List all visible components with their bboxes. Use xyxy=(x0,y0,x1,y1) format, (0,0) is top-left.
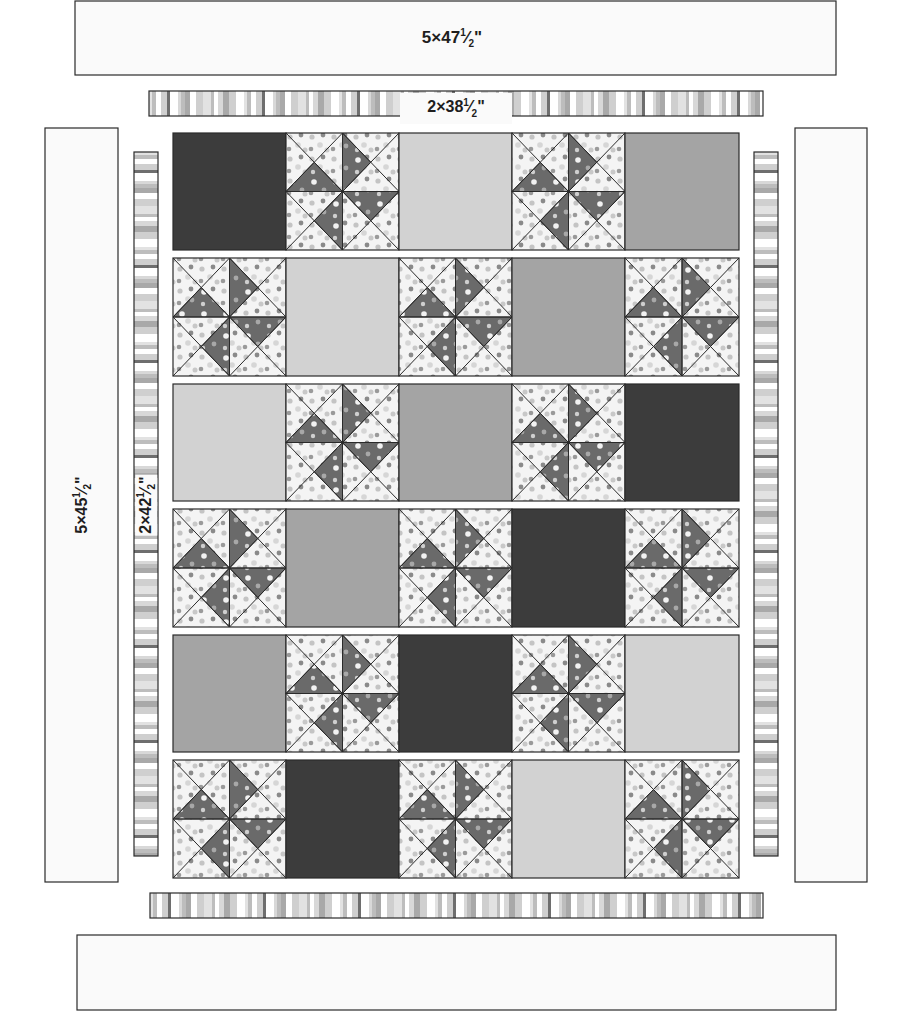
pinwheel-block xyxy=(173,258,286,376)
light-square xyxy=(173,384,286,501)
light-square xyxy=(625,635,739,752)
medium-square xyxy=(173,635,286,752)
pinwheel-block xyxy=(512,133,625,250)
quilt-row-6 xyxy=(173,760,739,878)
dark-square xyxy=(512,509,625,627)
pinwheel-block xyxy=(399,509,512,627)
medium-square xyxy=(399,384,512,501)
medium-square xyxy=(625,133,739,250)
pinwheel-block xyxy=(286,133,399,250)
bottom-outer-border xyxy=(77,935,836,1010)
top-outer-border-label: 5×471⁄2" xyxy=(0,27,904,49)
pinwheel-block xyxy=(512,635,625,752)
pinwheel-block xyxy=(625,760,739,878)
pinwheel-block xyxy=(173,760,286,878)
medium-square xyxy=(512,258,625,376)
pinwheel-block xyxy=(512,384,625,501)
dark-square xyxy=(399,635,512,752)
pinwheel-block xyxy=(399,760,512,878)
quilt-row-3 xyxy=(173,384,739,501)
bottom-inner-border xyxy=(150,893,763,918)
dark-square xyxy=(625,384,739,501)
light-square xyxy=(399,133,512,250)
pinwheel-block xyxy=(625,509,739,627)
quilt-row-4 xyxy=(173,509,739,627)
pinwheel-block xyxy=(399,258,512,376)
left-outer-border-label: 5×451⁄2" xyxy=(71,476,93,533)
medium-square xyxy=(286,509,399,627)
right-inner-border xyxy=(754,152,778,856)
quilt-row-5 xyxy=(173,635,739,752)
top-inner-border-label: 2×381⁄2" xyxy=(400,93,512,124)
dark-square xyxy=(173,133,286,250)
quilt-center xyxy=(173,133,739,878)
dark-square xyxy=(286,760,399,878)
right-outer-border xyxy=(795,128,867,882)
light-square xyxy=(512,760,625,878)
pinwheel-block xyxy=(286,635,399,752)
quilt-row-1 xyxy=(173,133,739,250)
pinwheel-block xyxy=(173,509,286,627)
pinwheel-block xyxy=(286,384,399,501)
light-square xyxy=(286,258,399,376)
left-inner-border-label: 2×421⁄2" xyxy=(135,474,157,535)
pinwheel-block xyxy=(625,258,739,376)
quilt-row-2 xyxy=(173,258,739,376)
